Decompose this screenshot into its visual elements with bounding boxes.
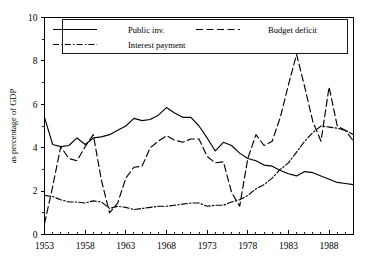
- x-axis-tick-labels: 19531958196319681973197819831988: [35, 241, 339, 251]
- y-axis-tick-labels: 0246810: [28, 13, 38, 240]
- chart-series: [45, 54, 354, 223]
- x-tick-label: 1963: [116, 241, 135, 251]
- y-axis-title-text: as percentage of GDP: [8, 89, 18, 164]
- x-axis-ticks: [45, 230, 354, 235]
- x-tick-label: 1978: [238, 241, 257, 251]
- y-tick-label: 6: [33, 100, 38, 110]
- y-tick-label: 2: [33, 186, 38, 196]
- y-tick-label: 10: [28, 13, 38, 23]
- legend-label-budget-deficit: Budget deficit: [268, 25, 318, 35]
- legend-label-public-inv: Public inv.: [128, 25, 165, 35]
- y-tick-label: 0: [33, 230, 38, 240]
- y-axis-ticks: [41, 18, 45, 235]
- x-tick-label: 1953: [35, 241, 54, 251]
- chart-legend: Public inv.Budget deficitInterest paymen…: [53, 20, 348, 54]
- y-tick-label: 8: [33, 56, 38, 66]
- y-axis-title: as percentage of GDP: [8, 89, 18, 164]
- line-chart: 0246810 19531958196319681973197819831988…: [0, 0, 369, 270]
- x-tick-label: 1988: [320, 241, 339, 251]
- x-tick-label: 1958: [76, 241, 95, 251]
- chart-container: 0246810 19531958196319681973197819831988…: [0, 0, 369, 270]
- x-tick-label: 1968: [157, 241, 176, 251]
- y-tick-label: 4: [33, 143, 38, 153]
- x-tick-label: 1983: [279, 241, 298, 251]
- x-tick-label: 1973: [198, 241, 217, 251]
- series-line-budget-deficit: [45, 54, 354, 223]
- legend-label-interest-payment: Interest payment: [128, 40, 186, 50]
- series-line-public-inv: [45, 108, 354, 185]
